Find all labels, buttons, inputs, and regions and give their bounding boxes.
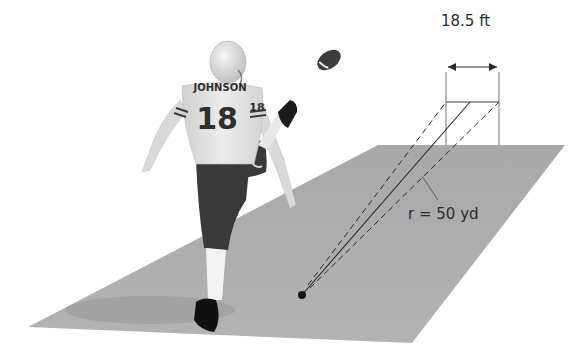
kick-diagram: JOHNSON 18 18 — [0, 0, 580, 355]
helmet — [210, 41, 246, 83]
jersey-number: 18 — [196, 101, 238, 136]
kick-point — [298, 291, 306, 299]
sleeve-number: 18 — [249, 101, 264, 114]
jersey-name: JOHNSON — [192, 82, 246, 93]
distance-label: r = 50 yd — [408, 205, 479, 223]
width-dimension-arrow — [448, 63, 497, 71]
goal-width-label: 18.5 ft — [441, 12, 490, 30]
football — [313, 46, 344, 75]
goalpost — [446, 72, 499, 145]
